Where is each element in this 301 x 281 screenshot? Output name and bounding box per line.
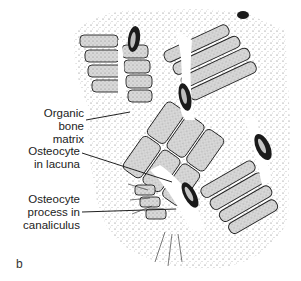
label-line: canaliculus xyxy=(14,219,80,232)
label-line: bone matrix xyxy=(24,120,84,146)
label-line: Osteocyte xyxy=(14,193,80,206)
label-organic-bone-matrix: Organic bone matrix xyxy=(24,107,84,146)
panel-letter: b xyxy=(16,257,23,271)
label-line: Organic xyxy=(24,107,84,120)
label-line: process in xyxy=(14,206,80,219)
label-line: Osteocyte xyxy=(20,145,80,158)
label-osteocyte-in-lacuna: Osteocyte in lacuna xyxy=(20,145,80,171)
osteocyte-lacuna-top xyxy=(237,11,249,19)
label-osteocyte-process-in-canaliculus: Osteocyte process in canaliculus xyxy=(14,193,80,232)
label-line: in lacuna xyxy=(20,158,80,171)
